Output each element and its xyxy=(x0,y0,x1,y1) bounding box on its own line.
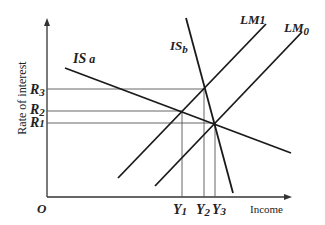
is-b-curve xyxy=(186,18,233,193)
r1-label: R1 xyxy=(29,115,45,130)
is-a-curve xyxy=(65,68,291,153)
lm1-curve xyxy=(118,24,266,178)
is-a-label: ISa xyxy=(72,51,95,66)
guide-lines xyxy=(47,89,215,197)
y1-label: Y1 xyxy=(173,202,187,217)
lm1-label: LM1 xyxy=(239,12,266,27)
lm0-curve xyxy=(155,32,302,186)
y3-label: Y3 xyxy=(212,202,227,217)
y-axis-label: Rate of interest xyxy=(15,61,29,135)
x-axis-arrow xyxy=(284,194,292,200)
y2-label: Y2 xyxy=(196,202,211,218)
x-axis-label: Income xyxy=(250,203,283,215)
origin-label: O xyxy=(37,201,47,216)
r3-label: R3 xyxy=(29,82,45,98)
lm0-label: LM0 xyxy=(283,20,310,37)
y-axis-arrow xyxy=(44,18,50,26)
is-lm-diagram: Rate of interest Income O ISa ISb LM1 LM… xyxy=(0,0,325,225)
is-b-label: ISb xyxy=(169,38,188,55)
